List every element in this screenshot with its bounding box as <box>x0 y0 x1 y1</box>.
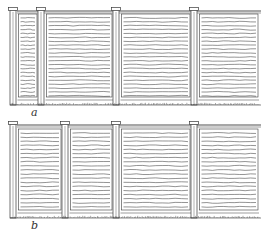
panel-board-line <box>202 149 257 150</box>
grass-tuft <box>207 216 208 218</box>
panel-board-line <box>202 206 257 207</box>
panel-board-line <box>124 198 189 199</box>
panel-board-line <box>124 153 189 154</box>
panel-board-line <box>202 199 257 200</box>
fence-panel <box>18 14 39 100</box>
panel-board-line <box>49 17 111 18</box>
panel-board-line <box>21 76 36 77</box>
panel-board-line <box>202 21 257 22</box>
post-cap <box>9 122 18 125</box>
post-cap <box>190 122 199 125</box>
panel-board-line <box>202 68 257 69</box>
panel-board-line <box>202 174 257 175</box>
panel-board-line <box>73 203 111 204</box>
fence-view-a <box>9 8 262 106</box>
panel-board-line <box>73 186 111 187</box>
panel-board-line <box>124 194 189 195</box>
panel-board-line <box>21 88 36 89</box>
panel-board-line <box>49 91 111 92</box>
panel-board-line <box>124 84 189 85</box>
panel-board-line <box>73 153 111 154</box>
panel-board-line <box>202 57 257 58</box>
panel-board-line <box>202 64 257 65</box>
panel-board-line <box>21 145 60 146</box>
fence-post <box>61 122 70 219</box>
panel-board-line <box>21 206 60 207</box>
panel-board-line <box>21 33 36 34</box>
panel-board-line <box>202 18 257 19</box>
panel-board-line <box>21 198 60 199</box>
panel-board-line <box>202 182 257 183</box>
grass-tuft <box>91 216 92 218</box>
panel-board-line <box>73 170 111 171</box>
panel-board-line <box>202 88 257 89</box>
post-cap <box>61 122 70 125</box>
panel-board-line <box>124 41 189 42</box>
panel-board-line <box>21 37 36 38</box>
panel-board-line <box>49 64 111 65</box>
fence-panel <box>18 129 63 213</box>
panel-board-line <box>21 170 60 171</box>
panel-board-line <box>124 33 189 34</box>
panel-board-line <box>124 64 189 65</box>
panel-board-line <box>21 186 60 187</box>
fence-figure: a b <box>0 0 261 233</box>
panel-board-line <box>49 25 111 26</box>
panel-board-line <box>124 80 189 81</box>
panel-board-line <box>21 190 60 191</box>
panel-board-line <box>202 25 257 26</box>
panel-board-line <box>49 33 111 34</box>
panel-board-line <box>202 153 257 154</box>
panel-board-line <box>49 53 111 54</box>
panel-board-line <box>202 29 257 30</box>
panel-board-line <box>124 178 189 179</box>
panel-board-line <box>49 45 111 46</box>
post-cap <box>37 8 46 11</box>
post-cap <box>9 8 18 11</box>
fence-panel <box>70 129 114 213</box>
fence-post <box>37 8 46 106</box>
panel-board-line <box>21 57 36 58</box>
panel-board-line <box>73 141 111 142</box>
fence-panel <box>121 14 192 100</box>
panel-board-line <box>21 41 36 42</box>
panel-board-line <box>73 190 111 191</box>
panel-board-line <box>124 88 189 89</box>
panel-board-line <box>124 76 189 77</box>
panel-board-line <box>21 65 36 66</box>
panel-board-line <box>202 145 257 146</box>
panel-board-line <box>21 84 36 85</box>
panel-board-line <box>202 141 257 142</box>
panel-board-line <box>124 169 189 170</box>
panel-board-line <box>124 53 189 54</box>
fence-view-b <box>9 122 262 219</box>
fence-post <box>9 8 18 106</box>
panel-board-line <box>124 21 189 22</box>
fence-post <box>190 122 199 219</box>
post-cap <box>112 122 121 125</box>
view-label-b: b <box>31 219 38 232</box>
panel-board-line <box>202 137 257 138</box>
panel-board-line <box>49 29 111 30</box>
panel-board-line <box>21 157 60 158</box>
panel-board-line <box>49 84 111 85</box>
panel-board-line <box>202 80 257 81</box>
panel-board-line <box>124 49 189 50</box>
panel-board-line <box>21 174 60 175</box>
panel-board-line <box>49 56 111 57</box>
panel-board-line <box>202 84 257 85</box>
panel-board-line <box>124 157 189 158</box>
panel-board-line <box>202 91 257 92</box>
panel-board-line <box>124 137 189 138</box>
panel-board-line <box>124 133 189 134</box>
panel-board-line <box>73 137 111 138</box>
panel-board-line <box>124 161 189 162</box>
panel-board-line <box>49 76 111 77</box>
panel-board-line <box>202 53 257 54</box>
panel-board-line <box>49 41 111 42</box>
panel-board-line <box>202 41 257 42</box>
panel-board-line <box>49 68 111 69</box>
panel-board-line <box>49 37 111 38</box>
panel-board-line <box>21 149 60 150</box>
panel-board-line <box>21 49 36 50</box>
